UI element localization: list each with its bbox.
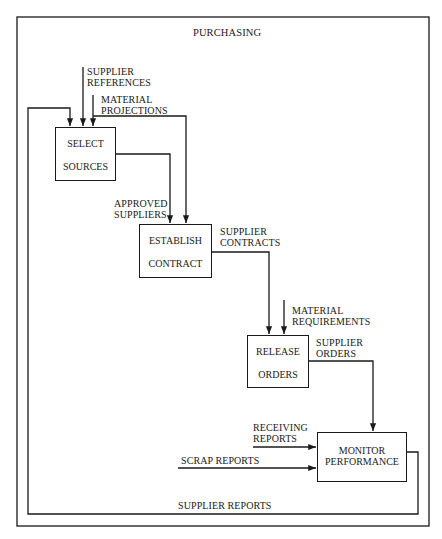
monitor-performance-box: MONITOR PERFORMANCE: [317, 432, 407, 482]
box-label-line1: SELECT: [56, 138, 115, 149]
supplier-orders-arrow: [309, 361, 373, 431]
supplier-reports-label: SUPPLIER REPORTS: [178, 500, 272, 511]
box-label-line1: RELEASE: [248, 346, 308, 357]
material-projections-label: MATERIAL PROJECTIONS: [101, 94, 168, 116]
box-label-line2: SOURCES: [56, 161, 115, 172]
select-sources-box: SELECT SOURCES: [55, 127, 116, 181]
supplier-contracts-label: SUPPLIER CONTRACTS: [220, 226, 280, 248]
box-label-line1: MONITOR: [318, 445, 406, 456]
material-requirements-label: MATERIAL REQUIREMENTS: [292, 305, 370, 327]
establish-contract-box: ESTABLISH CONTRACT: [139, 224, 212, 278]
supplier-orders-label: SUPPLIER ORDERS: [316, 337, 363, 359]
box-label-line2: ORDERS: [248, 369, 308, 380]
box-label-line1: ESTABLISH: [140, 235, 211, 246]
approved-suppliers-label: APPROVED SUPPLIERS: [114, 198, 168, 220]
receiving-reports-label: RECEIVING REPORTS: [253, 422, 308, 444]
diagram-title: PURCHASING: [193, 27, 261, 38]
release-orders-box: RELEASE ORDERS: [247, 335, 309, 388]
box-label-line2: PERFORMANCE: [318, 456, 406, 467]
scrap-reports-label: SCRAP REPORTS: [181, 455, 259, 466]
box-label-line2: CONTRACT: [140, 258, 211, 269]
supplier-contracts-arrow: [212, 252, 269, 334]
supplier-references-label: SUPPLIER REFERENCES: [87, 66, 151, 88]
